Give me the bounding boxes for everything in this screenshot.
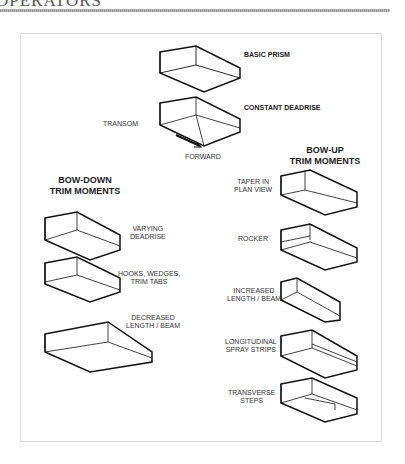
label-increased-length: INCREASEDLENGTH / BEAM <box>227 287 281 303</box>
label-varying-deadrise: VARYINGDEADRISE <box>130 225 166 241</box>
label-constant-deadrise: CONSTANT DEADRISE <box>244 104 320 112</box>
label-basic-prism: BASIC PRISM <box>244 51 290 59</box>
label-transverse-steps: TRANSVERSESTEPS <box>228 389 275 405</box>
taper-drawing <box>281 170 357 215</box>
basic-prism-drawing <box>160 46 240 92</box>
hull-drawings <box>0 0 405 464</box>
bow-down-heading: BOW-DOWN TRIM MOMENTS <box>45 175 125 197</box>
label-spray-strips: LONGITUDINALSPRAY STRIPS <box>225 338 277 354</box>
rocker-drawing <box>281 224 357 270</box>
transverse-steps-drawing <box>281 378 357 422</box>
label-forward: FORWARD <box>185 153 221 161</box>
label-decreased-length: DECREASEDLENGTH / BEAM <box>126 314 180 330</box>
label-taper: TAPER INPLAN VIEW <box>234 178 272 194</box>
label-transom: TRANSOM <box>103 120 138 128</box>
varying-deadrise-drawing <box>45 212 120 260</box>
hooks-wedges-drawing <box>45 257 120 302</box>
label-hooks-wedges: HOOKS, WEDGES,TRIM TABS <box>118 270 180 286</box>
bow-up-heading: BOW-UP TRIM MOMENTS <box>280 145 370 167</box>
constant-deadrise-drawing <box>160 97 240 147</box>
spray-strips-drawing <box>281 330 357 378</box>
increased-length-beam-drawing <box>281 278 340 322</box>
label-rocker: ROCKER <box>238 235 268 243</box>
